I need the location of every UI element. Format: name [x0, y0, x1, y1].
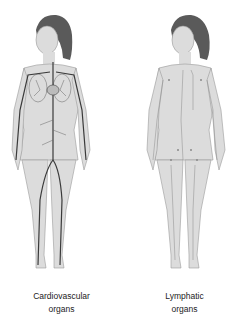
cardiovascular-body-illustration — [0, 0, 123, 275]
lymphatic-body-illustration — [123, 0, 246, 275]
lymphatic-caption: Lymphatic organs — [123, 290, 246, 316]
lymphatic-figure: Lymphatic organs — [123, 0, 246, 326]
caption-line-1: Cardiovascular — [0, 290, 123, 303]
caption-line-1: Lymphatic — [123, 290, 246, 303]
caption-line-2: organs — [123, 303, 246, 316]
cardiovascular-figure: Cardiovascular organs — [0, 0, 123, 326]
cardiovascular-caption: Cardiovascular organs — [0, 290, 123, 316]
caption-line-2: organs — [0, 303, 123, 316]
